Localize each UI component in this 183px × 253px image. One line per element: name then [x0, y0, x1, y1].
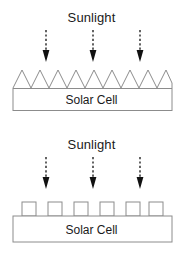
dashed-down-arrow-icon — [90, 30, 97, 62]
sunlight-arrows-bottom — [0, 155, 183, 195]
sunlight-label-top: Sunlight — [0, 10, 183, 25]
solar-cell-label-bottom: Solar Cell — [0, 223, 183, 237]
dashed-down-arrow-icon — [43, 157, 50, 189]
dashed-down-arrow-icon — [137, 157, 144, 189]
panel-square-textured-cell: Sunlight — [0, 127, 183, 253]
pillar-group — [22, 202, 163, 216]
pyramid-textured-surface — [0, 62, 183, 117]
dashed-down-arrow-icon — [137, 30, 144, 62]
solar-cell-texture-diagram: Sunlight Solar Cell Sunlight — [0, 0, 183, 253]
sunlight-label-bottom: Sunlight — [0, 137, 183, 152]
panel-pyramid-textured-cell: Sunlight Solar Cell — [0, 0, 183, 127]
solar-cell-label-top: Solar Cell — [0, 93, 183, 107]
dashed-down-arrow-icon — [43, 30, 50, 62]
dashed-down-arrow-icon — [90, 157, 97, 189]
